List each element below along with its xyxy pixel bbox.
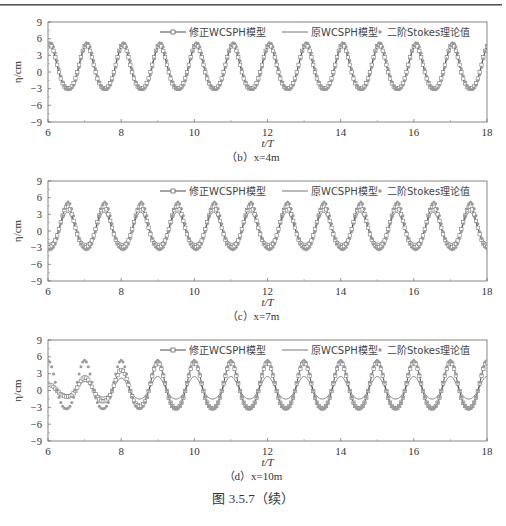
marker-stokes-theory	[261, 66, 264, 69]
chart-panel-0: 9630−3−6−9681012141618t/Tη/cm修正WCSPH模型原W…	[11, 17, 493, 150]
marker-stokes-theory	[478, 230, 481, 233]
panel-caption-b: （b）x=4m	[0, 148, 506, 164]
marker-stokes-theory	[383, 242, 386, 245]
marker-stokes-theory	[436, 207, 439, 210]
marker-stokes-theory	[427, 80, 430, 83]
y-tick-label: −3	[31, 402, 42, 413]
marker-stokes-theory	[196, 365, 199, 368]
marker-stokes-theory	[164, 381, 167, 384]
marker-stokes-theory	[153, 58, 156, 61]
marker-stokes-theory	[96, 222, 99, 225]
marker-stokes-theory	[271, 373, 274, 376]
y-tick-label: 6	[37, 192, 42, 203]
marker-stokes-theory	[59, 401, 62, 404]
marker-stokes-theory	[476, 389, 479, 392]
marker-stokes-theory	[100, 84, 103, 87]
marker-stokes-theory	[471, 202, 474, 205]
marker-modified-wcsph	[421, 63, 424, 66]
marker-stokes-theory	[184, 222, 187, 225]
x-tick-label: 16	[408, 126, 420, 138]
marker-stokes-theory	[337, 50, 340, 53]
marker-stokes-theory	[401, 396, 404, 399]
marker-stokes-theory	[246, 84, 249, 87]
y-tick-label: −9	[31, 436, 42, 447]
marker-stokes-theory	[456, 242, 459, 245]
marker-stokes-theory	[178, 405, 181, 408]
marker-stokes-theory	[473, 207, 476, 210]
marker-stokes-theory	[253, 207, 256, 210]
figure-svg: 9630−3−6−9681012141618t/Tη/cm修正WCSPH模型原W…	[0, 0, 506, 526]
marker-stokes-theory	[76, 73, 79, 76]
y-tick-label: 0	[37, 226, 42, 237]
marker-stokes-theory	[56, 59, 59, 62]
plot-area	[46, 201, 488, 252]
marker-modified-wcsph	[204, 70, 207, 73]
marker-stokes-theory	[423, 396, 426, 399]
marker-stokes-theory	[59, 74, 62, 77]
marker-stokes-theory	[292, 84, 295, 87]
marker-modified-wcsph	[72, 219, 75, 222]
marker-stokes-theory	[465, 84, 468, 87]
marker-stokes-theory	[240, 230, 243, 233]
marker-stokes-theory	[136, 84, 139, 87]
marker-stokes-theory	[237, 51, 240, 54]
x-tick-label: 16	[408, 445, 420, 457]
marker-stokes-theory	[173, 207, 176, 210]
marker-stokes-theory	[50, 42, 53, 45]
marker-stokes-theory	[111, 79, 114, 82]
x-tick-label: 18	[482, 285, 494, 297]
marker-stokes-theory	[112, 73, 115, 76]
marker-stokes-theory	[109, 84, 112, 87]
marker-stokes-theory	[482, 58, 485, 61]
marker-modified-wcsph	[237, 56, 240, 59]
marker-stokes-theory	[350, 230, 353, 233]
marker-stokes-theory	[348, 237, 351, 240]
marker-stokes-theory	[87, 42, 90, 45]
marker-stokes-theory	[471, 405, 474, 408]
marker-modified-wcsph	[346, 56, 349, 59]
marker-stokes-theory	[149, 230, 152, 233]
marker-stokes-theory	[264, 50, 267, 53]
marker-modified-wcsph	[147, 226, 150, 229]
marker-stokes-theory	[100, 207, 103, 210]
marker-stokes-theory	[48, 360, 51, 363]
y-axis-label: η/cm	[11, 60, 23, 83]
marker-stokes-theory	[226, 58, 229, 61]
marker-stokes-theory	[438, 396, 441, 399]
marker-stokes-theory	[167, 67, 170, 70]
marker-stokes-theory	[79, 58, 82, 61]
marker-stokes-theory	[409, 58, 412, 61]
marker-stokes-theory	[132, 222, 135, 225]
marker-stokes-theory	[228, 50, 231, 53]
marker-stokes-theory	[233, 365, 236, 368]
marker-stokes-theory	[328, 396, 331, 399]
marker-modified-wcsph	[312, 63, 315, 66]
marker-stokes-theory	[334, 373, 337, 376]
y-tick-label: 0	[37, 67, 42, 78]
panel-caption-c: （c）x=7m	[0, 307, 506, 323]
y-tick-label: −6	[31, 259, 42, 270]
marker-modified-wcsph	[458, 234, 461, 237]
marker-modified-wcsph	[401, 219, 404, 222]
marker-stokes-theory	[429, 84, 432, 87]
marker-stokes-theory	[259, 230, 262, 233]
marker-stokes-theory	[476, 79, 479, 82]
marker-modified-wcsph	[218, 219, 221, 222]
marker-stokes-theory	[346, 51, 349, 54]
marker-stokes-theory	[376, 44, 379, 47]
marker-stokes-theory	[405, 230, 408, 233]
marker-stokes-theory	[282, 84, 285, 87]
marker-stokes-theory	[196, 42, 199, 45]
marker-stokes-theory	[180, 87, 183, 90]
marker-stokes-theory	[206, 222, 209, 225]
marker-stokes-theory	[312, 59, 315, 62]
marker-stokes-theory	[231, 360, 234, 363]
x-tick-label: 6	[45, 126, 51, 138]
marker-stokes-theory	[261, 237, 264, 240]
marker-stokes-theory	[129, 237, 132, 240]
marker-stokes-theory	[346, 381, 349, 384]
marker-modified-wcsph	[238, 234, 241, 237]
marker-stokes-theory	[76, 230, 79, 233]
marker-stokes-theory	[279, 401, 282, 404]
marker-stokes-theory	[392, 84, 395, 87]
